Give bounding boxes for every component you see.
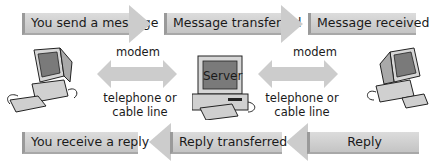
cable-line-text: cable line <box>262 105 342 119</box>
telephone-line-label: telephone or cable line <box>262 91 342 119</box>
recipient-computer-icon <box>350 46 430 114</box>
step-reply: Reply <box>307 132 419 154</box>
cable-line-text: cable line <box>100 105 180 119</box>
arrow-right-icon <box>129 5 151 43</box>
modem-label: modem <box>290 45 340 59</box>
step-message-received: Message received <box>308 13 416 35</box>
arrow-left-icon <box>286 123 308 161</box>
client-computer-icon <box>4 46 82 114</box>
telephone-or-text: telephone or <box>100 91 180 105</box>
server-label: Server <box>203 69 237 83</box>
step-you-send-message: You send a message <box>22 13 130 35</box>
double-arrow-icon <box>97 60 177 88</box>
arrow-left-icon <box>149 123 171 161</box>
double-arrow-icon <box>258 60 338 88</box>
arrow-right-icon <box>281 5 303 43</box>
step-you-receive-reply: You receive a reply <box>22 132 138 154</box>
telephone-line-label: telephone or cable line <box>100 91 180 119</box>
server-computer-icon <box>192 54 262 120</box>
step-reply-transferred: Reply transferred <box>170 132 282 154</box>
modem-label: modem <box>113 45 163 59</box>
telephone-or-text: telephone or <box>262 91 342 105</box>
step-message-transferred: Message transferred <box>164 13 282 35</box>
